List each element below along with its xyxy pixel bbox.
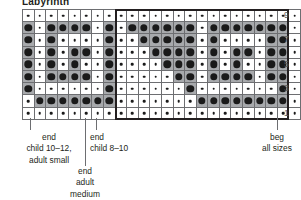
big-dot-icon xyxy=(245,48,252,55)
chart-cell xyxy=(150,83,162,95)
big-dot-icon xyxy=(175,48,182,55)
big-dot-icon xyxy=(233,48,240,55)
chart-cell xyxy=(80,34,92,46)
small-dot-icon xyxy=(247,87,250,90)
small-dot-icon xyxy=(247,14,250,17)
small-dot-icon xyxy=(270,14,273,17)
chart-cell xyxy=(92,46,104,58)
chart-row xyxy=(23,10,301,22)
small-dot-icon xyxy=(73,39,76,42)
chart-cell xyxy=(289,10,301,22)
chart-cell xyxy=(104,22,116,34)
chart-cell xyxy=(266,83,278,95)
chart-cell xyxy=(173,46,185,58)
chart-cell xyxy=(34,10,46,22)
small-dot-icon xyxy=(235,87,238,90)
chart-row xyxy=(23,70,301,82)
row-number-5: 5 xyxy=(284,60,289,69)
small-dot-icon xyxy=(27,14,30,17)
small-dot-icon xyxy=(96,75,99,78)
chart-cell xyxy=(34,107,46,119)
small-dot-icon xyxy=(120,112,123,115)
big-dot-icon xyxy=(71,73,78,80)
chart-cell xyxy=(46,70,58,82)
small-dot-icon xyxy=(96,87,99,90)
chart-cell xyxy=(254,22,266,34)
small-dot-icon xyxy=(224,14,227,17)
chart-cell xyxy=(127,70,139,82)
chart-cell xyxy=(138,107,150,119)
small-dot-icon xyxy=(212,112,215,115)
chart-cell xyxy=(219,10,231,22)
chart-cell xyxy=(138,95,150,107)
chart-cell xyxy=(242,95,254,107)
big-dot-icon xyxy=(82,73,89,80)
small-dot-icon xyxy=(108,112,111,115)
chart-cell xyxy=(104,10,116,22)
small-dot-icon xyxy=(247,63,250,66)
stitch-chart-grid xyxy=(22,9,301,120)
chart-cell xyxy=(46,34,58,46)
big-dot-icon xyxy=(59,97,66,104)
small-dot-icon xyxy=(85,14,88,17)
chart-cell xyxy=(185,22,197,34)
big-dot-icon xyxy=(268,48,275,55)
chart-cell xyxy=(23,22,35,34)
chart-cell xyxy=(242,22,254,34)
chart-cell xyxy=(289,70,301,82)
chart-cell xyxy=(57,70,69,82)
big-dot-icon xyxy=(279,24,286,31)
small-dot-icon xyxy=(73,87,76,90)
big-dot-icon xyxy=(233,24,240,31)
small-dot-icon xyxy=(293,112,296,115)
chart-cell xyxy=(80,10,92,22)
small-dot-icon xyxy=(201,26,204,29)
small-dot-icon xyxy=(293,39,296,42)
big-dot-icon xyxy=(175,61,182,68)
small-dot-icon xyxy=(235,39,238,42)
small-dot-icon xyxy=(259,87,262,90)
big-dot-icon xyxy=(279,97,286,104)
big-dot-icon xyxy=(36,97,43,104)
small-dot-icon xyxy=(50,87,53,90)
big-dot-icon xyxy=(106,97,113,104)
big-dot-icon xyxy=(268,97,275,104)
small-dot-icon xyxy=(293,100,296,103)
chart-cell xyxy=(46,22,58,34)
chart-cell xyxy=(138,46,150,58)
small-dot-icon xyxy=(120,100,123,103)
small-dot-icon xyxy=(178,87,181,90)
chart-cell xyxy=(289,58,301,70)
chart-cell xyxy=(23,58,35,70)
small-dot-icon xyxy=(189,112,192,115)
small-dot-icon xyxy=(131,39,134,42)
chart-cell xyxy=(80,22,92,34)
small-dot-icon xyxy=(259,14,262,17)
small-dot-icon xyxy=(178,14,181,17)
chart-cell xyxy=(161,46,173,58)
chart-cell xyxy=(266,58,278,70)
chart-cell xyxy=(231,10,243,22)
small-dot-icon xyxy=(85,39,88,42)
small-dot-icon xyxy=(62,14,65,17)
small-dot-icon xyxy=(224,112,227,115)
small-dot-icon xyxy=(120,26,123,29)
small-dot-icon xyxy=(73,14,76,17)
chart-cell xyxy=(242,46,254,58)
small-dot-icon xyxy=(212,87,215,90)
small-dot-icon xyxy=(247,112,250,115)
chart-cell xyxy=(208,70,220,82)
chart-cell xyxy=(23,10,35,22)
chart-cell xyxy=(208,46,220,58)
big-dot-icon xyxy=(59,24,66,31)
big-dot-icon xyxy=(221,73,228,80)
chart-cell xyxy=(80,83,92,95)
annotation-beg-all-sizes: beg all sizes xyxy=(237,132,301,155)
small-dot-icon xyxy=(293,14,296,17)
chart-row xyxy=(23,46,301,58)
chart-cell xyxy=(219,34,231,46)
chart-cell xyxy=(289,83,301,95)
chart-cell xyxy=(208,95,220,107)
tick-beg-all-sizes xyxy=(277,118,278,130)
chart-cell xyxy=(231,107,243,119)
